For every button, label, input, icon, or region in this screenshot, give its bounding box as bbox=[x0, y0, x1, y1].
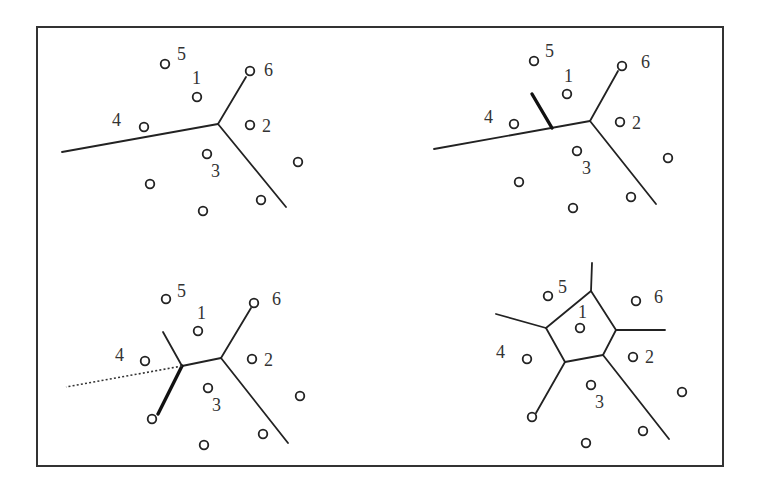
voronoi-edge-dotted bbox=[66, 366, 182, 387]
site-point bbox=[259, 430, 268, 439]
site-point-1 bbox=[563, 90, 572, 99]
site-label: 2 bbox=[264, 350, 273, 370]
site-label: 5 bbox=[545, 41, 554, 61]
voronoi-edge-bold bbox=[532, 94, 552, 128]
site-point-3 bbox=[204, 384, 213, 393]
site-point-2 bbox=[629, 353, 638, 362]
site-point-6 bbox=[618, 62, 627, 71]
site-point-3 bbox=[203, 150, 212, 159]
site-point bbox=[627, 193, 636, 202]
site-label: 4 bbox=[496, 342, 505, 362]
voronoi-edge bbox=[546, 328, 565, 362]
site-point-5 bbox=[161, 60, 170, 69]
site-point bbox=[515, 178, 524, 187]
site-point-1 bbox=[576, 324, 585, 333]
voronoi-edge bbox=[221, 308, 251, 358]
site-point-5 bbox=[162, 295, 171, 304]
site-label: 6 bbox=[264, 60, 273, 80]
site-point bbox=[639, 427, 648, 436]
site-label: 2 bbox=[645, 347, 654, 367]
voronoi-edge bbox=[182, 358, 221, 366]
site-label: 3 bbox=[211, 161, 220, 181]
voronoi-edge bbox=[536, 362, 565, 413]
site-point-1 bbox=[193, 93, 202, 102]
site-label: 5 bbox=[177, 44, 186, 64]
site-point-6 bbox=[246, 67, 255, 76]
site-point-4 bbox=[140, 123, 149, 132]
site-point-6 bbox=[632, 297, 641, 306]
voronoi-edge bbox=[218, 124, 286, 207]
panel-top-right: 516423 bbox=[434, 41, 672, 212]
site-point bbox=[200, 441, 209, 450]
site-point bbox=[294, 158, 303, 167]
site-label: 5 bbox=[177, 281, 186, 301]
site-point-4 bbox=[141, 357, 150, 366]
site-point-1 bbox=[194, 327, 203, 336]
site-point-2 bbox=[616, 118, 625, 127]
voronoi-edge bbox=[218, 77, 246, 124]
voronoi-edge bbox=[221, 358, 288, 443]
site-label: 3 bbox=[595, 392, 604, 412]
site-point-5 bbox=[530, 57, 539, 66]
site-label: 1 bbox=[578, 302, 587, 322]
site-point-3 bbox=[573, 147, 582, 156]
site-point bbox=[257, 196, 266, 205]
voronoi-edge bbox=[591, 263, 592, 291]
site-point bbox=[296, 392, 305, 401]
site-point bbox=[148, 415, 157, 424]
voronoi-edge-bold bbox=[158, 366, 182, 414]
site-point-6 bbox=[250, 299, 259, 308]
site-label: 4 bbox=[484, 107, 493, 127]
voronoi-edge bbox=[565, 355, 603, 362]
site-label: 1 bbox=[192, 68, 201, 88]
site-point bbox=[582, 439, 591, 448]
voronoi-figure: 516423516423516423516423 bbox=[0, 0, 761, 487]
panels: 516423516423516423516423 bbox=[62, 41, 686, 449]
site-label: 2 bbox=[262, 116, 271, 136]
site-label: 2 bbox=[632, 113, 641, 133]
site-label: 1 bbox=[197, 303, 206, 323]
site-point bbox=[199, 207, 208, 216]
site-label: 6 bbox=[641, 52, 650, 72]
voronoi-edge bbox=[496, 314, 546, 328]
site-label: 6 bbox=[272, 289, 281, 309]
site-label: 3 bbox=[582, 158, 591, 178]
panel-top-left: 516423 bbox=[62, 44, 302, 215]
site-point-3 bbox=[587, 381, 596, 390]
site-point bbox=[528, 413, 537, 422]
site-label: 4 bbox=[112, 110, 121, 130]
voronoi-edge bbox=[603, 330, 616, 355]
site-label: 1 bbox=[564, 66, 573, 86]
panel-bottom-right: 516423 bbox=[496, 263, 686, 447]
voronoi-edge bbox=[163, 332, 182, 366]
figure-frame bbox=[37, 27, 723, 466]
site-point bbox=[678, 388, 687, 397]
site-label: 6 bbox=[654, 287, 663, 307]
site-point-2 bbox=[248, 355, 257, 364]
site-point-2 bbox=[246, 121, 255, 130]
site-point-4 bbox=[523, 355, 532, 364]
site-point bbox=[146, 180, 155, 189]
site-point-4 bbox=[510, 120, 519, 129]
voronoi-edge bbox=[590, 71, 618, 121]
panel-bottom-left: 516423 bbox=[66, 281, 304, 449]
voronoi-edge bbox=[590, 121, 656, 204]
voronoi-edge bbox=[591, 291, 616, 330]
site-point bbox=[664, 154, 673, 163]
site-point bbox=[569, 204, 578, 213]
site-label: 4 bbox=[115, 345, 124, 365]
voronoi-edge bbox=[603, 355, 669, 439]
site-point-5 bbox=[544, 292, 553, 301]
site-label: 3 bbox=[212, 395, 221, 415]
site-label: 5 bbox=[558, 277, 567, 297]
